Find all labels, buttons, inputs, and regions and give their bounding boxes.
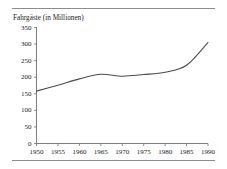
y-axis-tick-label: 50 (12, 123, 32, 131)
y-axis-tick-label: 350 (12, 24, 32, 32)
bottom-divider (12, 160, 215, 161)
y-axis-tick-label: 100 (12, 106, 32, 114)
y-axis-tick-label: 150 (12, 90, 32, 98)
data-series-line (37, 42, 209, 91)
chart-figure: Fahrgäste (in Millionen) 050100150200250… (0, 0, 227, 169)
y-axis-tick-label: 300 (12, 40, 32, 48)
chart-svg (0, 0, 227, 169)
chart-axes (37, 27, 209, 144)
line-chart-plot (0, 0, 227, 169)
y-axis-tick-label: 250 (12, 57, 32, 65)
x-axis-tick-label: 1990 (195, 148, 221, 156)
y-axis-tick-label: 200 (12, 73, 32, 81)
y-axis-tick-label: 0 (12, 140, 32, 148)
